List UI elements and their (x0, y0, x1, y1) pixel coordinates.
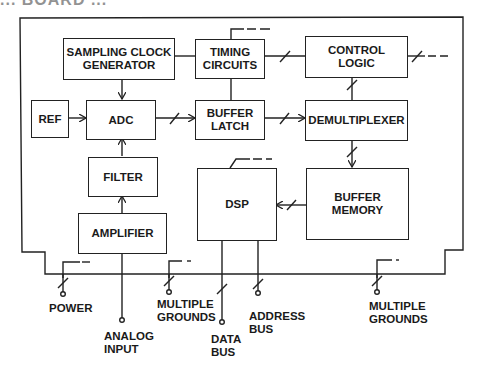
analog-input-label: ANALOG INPUT (104, 330, 154, 356)
control-logic-block: CONTROL LOGIC (305, 36, 408, 78)
multiple-grounds-label-1: MULTIPLE GROUNDS (157, 298, 216, 324)
address-bus-label: ADDRESS BUS (249, 310, 305, 336)
dsp-block: DSP (197, 168, 277, 241)
filter-block: FILTER (88, 157, 158, 197)
demultiplexer-block: DEMULTIPLEXER (305, 100, 408, 141)
power-label: POWER (49, 302, 92, 315)
buffer-memory-block: BUFFER MEMORY (306, 168, 409, 240)
sampling-clock-generator-block: SAMPLING CLOCK GENERATOR (63, 38, 175, 80)
ref-block: REF (31, 100, 69, 138)
buffer-latch-block: BUFFER LATCH (195, 100, 265, 140)
timing-circuits-block: TIMING CIRCUITS (195, 39, 265, 79)
multiple-grounds-label-2: MULTIPLE GROUNDS (369, 300, 428, 326)
adc-block: ADC (86, 100, 156, 140)
amplifier-block: AMPLIFIER (78, 213, 167, 254)
data-bus-label: DATA BUS (211, 333, 241, 359)
